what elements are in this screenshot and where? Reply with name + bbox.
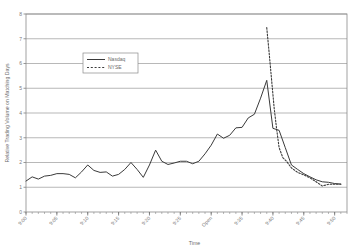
x-tick-label-9: 9:45 xyxy=(295,215,306,226)
x-tick-label-4: 9:20 xyxy=(140,215,151,226)
y-tick-label-6: 6 xyxy=(19,60,22,66)
y-tick-label-1: 1 xyxy=(19,184,22,190)
y-tick-label-4: 4 xyxy=(19,110,22,116)
x-tick-label-2: 9:10 xyxy=(79,215,90,226)
chart-container: 0123456789:009:059:109:159:209:25Open9:3… xyxy=(0,0,357,250)
x-tick-label-3: 9:15 xyxy=(109,215,120,226)
y-tick-label-7: 7 xyxy=(19,36,22,42)
y-axis-title: Relative Trading Volume on Matching Days xyxy=(4,63,10,163)
x-tick-label-6: Open xyxy=(200,215,213,228)
y-tick-label-2: 2 xyxy=(19,159,22,165)
x-tick-label-5: 9:25 xyxy=(171,215,182,226)
y-tick-label-0: 0 xyxy=(19,209,22,215)
x-tick-label-0: 9:00 xyxy=(17,215,28,226)
x-tick-label-8: 9:40 xyxy=(264,215,275,226)
legend-label-nasdaq: Nasdaq xyxy=(108,56,125,62)
x-tick-label-7: 9:35 xyxy=(233,215,244,226)
y-tick-label-3: 3 xyxy=(19,135,22,141)
x-tick-label-10: 9:50 xyxy=(325,215,336,226)
legend-label-nyse: NYSE xyxy=(108,64,122,70)
relative-trading-volume-line-chart: 0123456789:009:059:109:159:209:25Open9:3… xyxy=(0,0,357,250)
x-tick-label-1: 9:05 xyxy=(48,215,59,226)
x-axis-title: Time xyxy=(189,240,200,246)
y-tick-label-8: 8 xyxy=(19,11,22,17)
y-tick-label-5: 5 xyxy=(19,85,22,91)
